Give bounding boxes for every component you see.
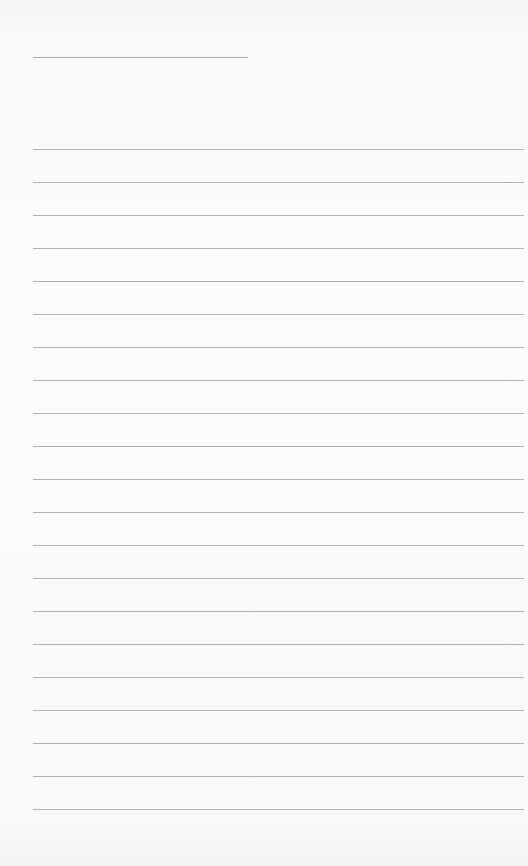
header-field[interactable] <box>33 37 248 57</box>
writing-line-4[interactable] <box>33 216 524 249</box>
header-underline <box>33 57 248 58</box>
writing-line-15[interactable] <box>33 579 524 612</box>
writing-line-18[interactable] <box>33 678 524 711</box>
writing-line-21[interactable] <box>33 777 524 810</box>
notepaper-sheet <box>0 0 528 866</box>
writing-line-14[interactable] <box>33 546 524 579</box>
writing-line-17[interactable] <box>33 645 524 678</box>
writing-line-12[interactable] <box>33 480 524 513</box>
writing-line-20[interactable] <box>33 744 524 777</box>
writing-line-13[interactable] <box>33 513 524 546</box>
writing-line-11[interactable] <box>33 447 524 480</box>
writing-line-9[interactable] <box>33 381 524 414</box>
writing-line-2[interactable] <box>33 150 524 183</box>
writing-line-3[interactable] <box>33 183 524 216</box>
writing-line-1[interactable] <box>33 117 524 150</box>
writing-line-5[interactable] <box>33 249 524 282</box>
writing-line-6[interactable] <box>33 282 524 315</box>
writing-line-7[interactable] <box>33 315 524 348</box>
writing-line-16[interactable] <box>33 612 524 645</box>
writing-line-10[interactable] <box>33 414 524 447</box>
writing-line-8[interactable] <box>33 348 524 381</box>
writing-line-19[interactable] <box>33 711 524 744</box>
